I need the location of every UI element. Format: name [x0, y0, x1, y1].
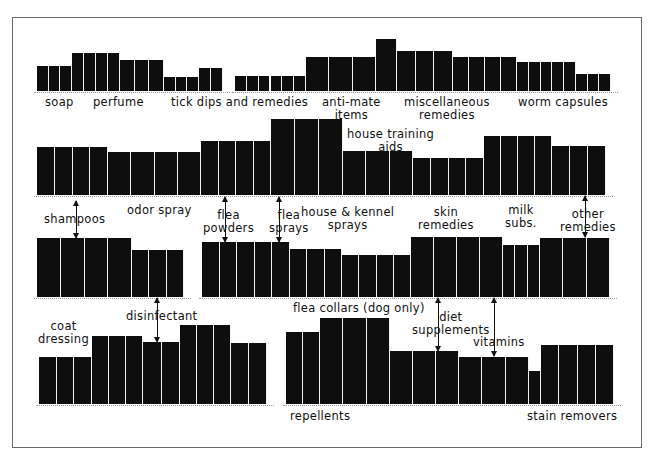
pointer-arrow-icon	[494, 298, 495, 356]
bar-row2-g1-s6-1	[413, 158, 431, 195]
bar-row3-g2-s1-2	[220, 242, 238, 297]
category-label: vitamins	[473, 336, 525, 349]
bar-row2-g1-s7-2	[501, 136, 518, 195]
bar-row4-g1-s1-2	[57, 357, 75, 404]
pointer-arrow-icon	[225, 197, 226, 242]
bar-row3-g2-s6-3	[587, 238, 610, 297]
bar-row3-g2-s4-1	[411, 237, 434, 297]
bar-row1-g1-s4-3	[187, 77, 199, 91]
bar-row1-g1-s5-2	[211, 68, 223, 91]
bar-row3-g2-s2-1	[290, 249, 307, 297]
bar-row1-g1-s2-1	[72, 53, 84, 91]
bar-row2-g1-s1-1	[37, 147, 55, 195]
bar-row1-g2-s2-3	[353, 57, 376, 91]
category-label: milksubs.	[505, 204, 537, 229]
bar-row2-g1-s3-2	[219, 141, 237, 195]
bar-row1-g2-s6-4	[552, 62, 564, 91]
bar-row1-g1-s1-3	[60, 66, 72, 91]
bar-row3-g2-s3-1	[342, 255, 359, 297]
bar-row4-g2-s4-2	[482, 357, 505, 404]
row-baseline	[34, 92, 230, 93]
row-baseline	[232, 92, 618, 93]
bar-row1-g2-s2-1	[306, 57, 329, 91]
bar-row1-g2-s2-2	[329, 57, 352, 91]
bar-row2-g1-s7-3	[518, 136, 535, 195]
bar-row2-g1-s4-3	[319, 119, 343, 195]
bar-row2-g1-s8-1	[552, 146, 570, 195]
bar-row3-g2-s5-1	[503, 245, 515, 297]
bar-row4-g2-s4-1	[459, 357, 482, 404]
bar-row3-g2-s1-1	[202, 242, 220, 297]
row-baseline	[199, 298, 617, 299]
bar-row3-g2-s1-4	[255, 242, 273, 297]
bar-row1-g2-s6-5	[564, 62, 576, 91]
bar-row1-g2-s7-1	[576, 74, 588, 91]
bar-row2-g1-s7-4	[535, 136, 552, 195]
bar-row1-g2-s1-6	[294, 76, 306, 91]
bar-row1-g1-s2-4	[108, 53, 120, 91]
bar-row4-g2-s1-2	[303, 332, 320, 404]
row-baseline	[36, 405, 274, 406]
category-label: dietsupplements	[412, 311, 490, 336]
bar-row4-g1-s2-1	[92, 336, 109, 404]
bar-row3-g2-s2-3	[325, 249, 342, 297]
bar-row1-g1-s3-1	[120, 60, 135, 91]
bar-row1-g2-s1-4	[271, 76, 283, 91]
bar-row4-g1-s3-2	[162, 342, 181, 404]
bar-row2-g1-s2-1	[108, 152, 131, 195]
bar-row2-g1-s5-3	[390, 151, 413, 195]
bar-row4-g2-s2-1	[320, 318, 343, 404]
bar-row1-g2-s4-2	[416, 51, 435, 91]
bar-row3-g2-s4-3	[457, 237, 480, 297]
bar-row1-g2-s1-3	[259, 76, 271, 91]
bar-row4-g2-s5-1	[529, 371, 541, 404]
bar-row3-g2-s1-3	[237, 242, 255, 297]
bar-row3-g2-s4-4	[480, 237, 503, 297]
bar-row2-g1-s1-4	[90, 147, 108, 195]
bar-row3-g1-s1-3	[85, 238, 109, 297]
pointer-arrow-icon	[76, 201, 77, 238]
category-label: soap	[45, 96, 74, 109]
bar-row4-g1-s2-3	[126, 336, 143, 404]
bar-row3-g1-s1-2	[61, 238, 85, 297]
bar-row3-g2-s3-2	[359, 255, 376, 297]
bar-row2-g1-s7-1	[484, 136, 501, 195]
bar-row2-g1-s2-4	[178, 152, 201, 195]
category-label: shampoos	[44, 213, 105, 226]
bar-row4-g2-s1-1	[286, 332, 303, 404]
bar-row2-g1-s5-1	[343, 151, 366, 195]
bar-row3-g2-s2-2	[307, 249, 324, 297]
bar-row1-g2-s6-3	[541, 62, 553, 91]
category-label: odor spray	[127, 204, 192, 217]
bar-row1-g1-s2-3	[96, 53, 108, 91]
category-label: skinremedies	[418, 206, 474, 231]
bar-row4-g2-s2-2	[343, 318, 366, 404]
bar-row3-g2-s5-2	[515, 245, 527, 297]
category-label: house & kennelsprays	[301, 206, 394, 231]
bar-row4-g1-s5-2	[249, 343, 267, 404]
bar-row4-g2-s3-3	[436, 351, 459, 404]
bar-row1-g2-s5-3	[485, 57, 501, 91]
category-label: tick dips and remedies	[171, 96, 308, 109]
row-baseline	[34, 298, 191, 299]
bar-row3-g1-s2-3	[167, 250, 184, 297]
bar-row1-g2-s5-4	[501, 57, 517, 91]
bar-row3-g1-s1-4	[108, 238, 132, 297]
category-label: anti-mateitems	[322, 96, 381, 121]
bar-row4-g1-s4-3	[214, 325, 231, 404]
bar-row4-g1-s4-1	[180, 325, 197, 404]
bar-row1-g2-s4-3	[434, 51, 453, 91]
bar-row1-g1-s3-3	[149, 60, 164, 91]
bar-row3-g2-s1-5	[272, 242, 290, 297]
bar-row3-g2-s5-3	[528, 245, 540, 297]
bar-row4-g2-s6-4	[596, 345, 614, 404]
bar-row4-g2-s4-3	[506, 357, 529, 404]
bar-row1-g1-s4-1	[164, 77, 176, 91]
category-label: otherremedies	[560, 208, 616, 233]
bar-row1-g1-s3-2	[135, 60, 150, 91]
bar-row1-g1-s1-2	[49, 66, 61, 91]
bar-row2-g1-s8-2	[570, 146, 588, 195]
category-label: miscellaneousremedies	[404, 96, 490, 121]
bar-row2-g1-s6-2	[431, 158, 449, 195]
bar-row2-g1-s3-1	[201, 141, 219, 195]
